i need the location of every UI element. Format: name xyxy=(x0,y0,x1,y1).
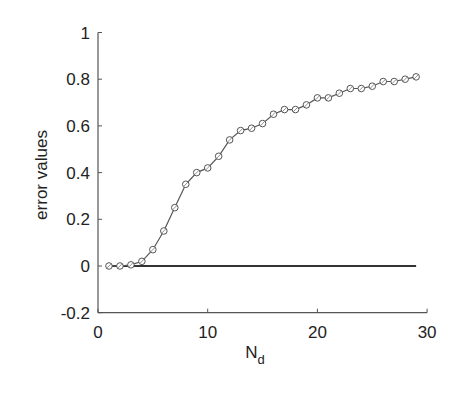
axes: -0.200.20.40.60.810102030 xyxy=(61,24,437,342)
x-tick-label: 0 xyxy=(93,323,102,342)
plot-series xyxy=(106,74,420,270)
x-tick-label: 10 xyxy=(198,323,217,342)
y-tick-label: 1 xyxy=(81,24,90,43)
y-tick-label: 0 xyxy=(81,257,90,276)
x-tick-label: 30 xyxy=(418,323,437,342)
y-axis-label: error values xyxy=(32,130,51,220)
y-tick-label: 0.6 xyxy=(66,117,90,136)
x-axis-label: Nd xyxy=(245,343,265,367)
y-tick-label: 0.4 xyxy=(66,164,90,183)
y-tick-label: 0.2 xyxy=(66,210,90,229)
error-line xyxy=(109,77,416,266)
y-tick-label: 0.8 xyxy=(66,70,90,89)
x-tick-label: 20 xyxy=(308,323,327,342)
line-chart: -0.200.20.40.60.810102030 error values N… xyxy=(0,0,460,403)
y-tick-label: -0.2 xyxy=(61,304,90,323)
